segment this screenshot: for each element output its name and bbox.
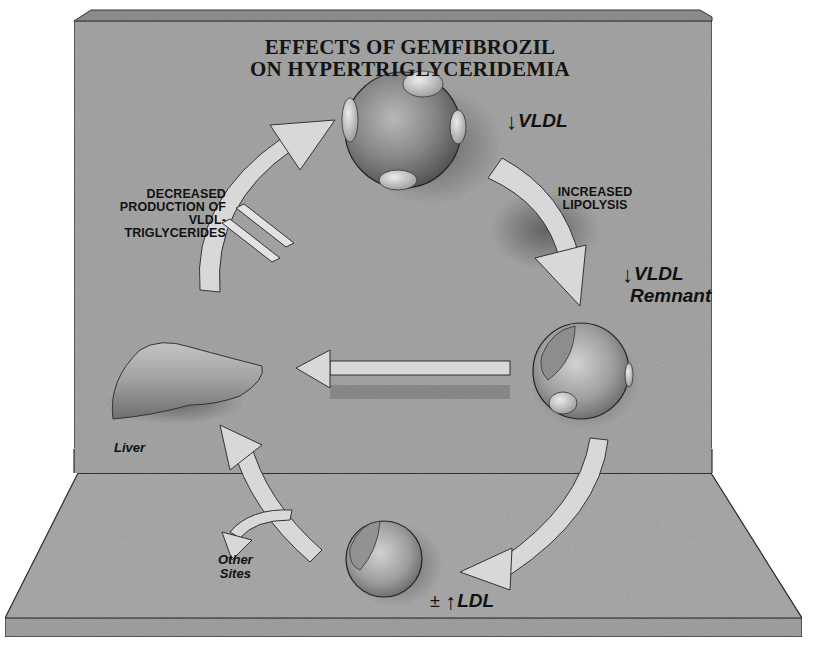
vldl-text: VLDL bbox=[518, 110, 568, 131]
text-vldl-triglycerides: VLDL-TRIGLYCERIDES bbox=[116, 214, 226, 240]
text-sites: Sites bbox=[218, 567, 253, 581]
down-arrow-icon: ↓ bbox=[622, 263, 633, 286]
label-decreased-production: DECREASED PRODUCTION OF VLDL-TRIGLYCERID… bbox=[116, 188, 226, 241]
text-other: Other bbox=[218, 553, 253, 567]
label-increased-lipolysis: INCREASED LIPOLYSIS bbox=[550, 186, 640, 212]
text-lipolysis: LIPOLYSIS bbox=[550, 199, 640, 212]
up-arrow-icon: ↑ bbox=[445, 590, 456, 613]
remnant-text: Remnant bbox=[622, 286, 711, 306]
title-line-2: ON HYPERTRIGLYCERIDEMIA bbox=[240, 58, 580, 80]
label-vldl-remnant: ↓VLDL Remnant bbox=[622, 263, 711, 306]
label-vldl-top: ↓VLDL bbox=[506, 110, 568, 133]
plus-minus-icon: ± bbox=[430, 591, 440, 611]
diagram-title: EFFECTS OF GEMFIBROZIL ON HYPERTRIGLYCER… bbox=[240, 36, 580, 80]
down-arrow-icon: ↓ bbox=[506, 110, 517, 133]
label-ldl: ± ↑LDL bbox=[430, 590, 494, 613]
label-other-sites: Other Sites bbox=[218, 553, 253, 580]
ldl-text: LDL bbox=[457, 590, 494, 611]
title-line-1: EFFECTS OF GEMFIBROZIL bbox=[240, 36, 580, 58]
vldl-text: VLDL bbox=[634, 263, 684, 284]
diagram-scene bbox=[0, 0, 814, 656]
label-liver: Liver bbox=[114, 441, 145, 455]
